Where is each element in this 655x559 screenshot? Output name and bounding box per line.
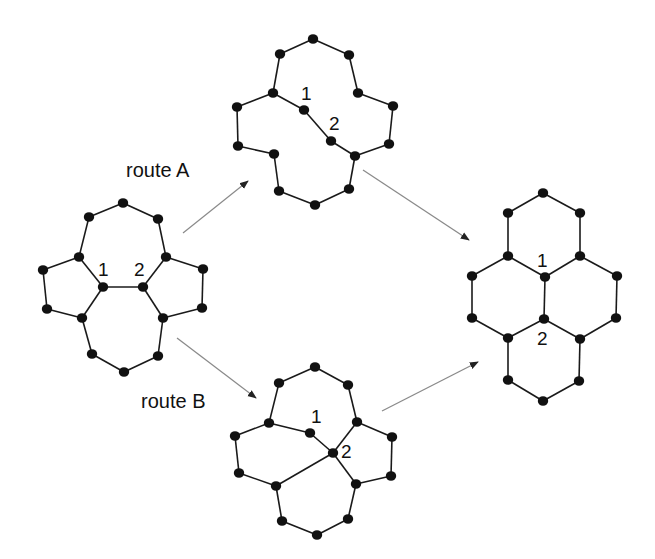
bond (237, 107, 238, 146)
bond (143, 257, 166, 287)
atom-node (343, 380, 353, 390)
atom-node (268, 88, 278, 98)
bond (356, 476, 391, 484)
arrow-routeA-to-product-arrow (363, 170, 469, 240)
atom-label-2: 2 (341, 441, 352, 462)
bond (315, 367, 348, 385)
atom-node (387, 432, 397, 442)
bond (158, 219, 166, 257)
atom-node (503, 251, 513, 261)
atom-node (312, 530, 322, 540)
bond (163, 308, 202, 318)
bond (269, 383, 279, 423)
product-molecule: 12 (467, 188, 622, 406)
atom-node (305, 428, 315, 438)
bond (238, 146, 274, 154)
bond (580, 318, 616, 339)
bond (508, 193, 543, 213)
bond (472, 318, 508, 338)
bond (89, 203, 123, 217)
bond (166, 257, 203, 269)
atom-node (161, 252, 171, 262)
route-a-label: route A (126, 159, 190, 181)
bond (47, 309, 82, 318)
atom-node (326, 136, 336, 146)
atom-node (118, 198, 128, 208)
reactant-molecule: 12 (38, 198, 208, 377)
reaction-diagram: 12121212 route A route B (0, 0, 655, 559)
atom-node (575, 208, 585, 218)
atom-label-1: 1 (301, 83, 312, 104)
atom-node (575, 251, 585, 261)
bond (276, 486, 282, 521)
atom-node (538, 396, 548, 406)
atom-node (352, 417, 362, 427)
atom-node (503, 333, 513, 343)
atom-node (197, 303, 207, 313)
route-labels: route A route B (126, 159, 205, 412)
atom-node (271, 481, 281, 491)
atom-node (42, 304, 52, 314)
atom-node (84, 212, 94, 222)
atom-node (274, 186, 284, 196)
atom-label-2: 2 (134, 259, 145, 280)
atom-label-2: 2 (329, 113, 340, 134)
atom-node (539, 314, 549, 324)
bond (357, 422, 392, 437)
bond (544, 319, 580, 339)
bond (92, 354, 124, 372)
atom-node (575, 334, 585, 344)
bond (355, 144, 389, 156)
atom-node (467, 313, 477, 323)
reaction-arrows (177, 170, 478, 411)
bond (202, 269, 203, 308)
atom-node (503, 208, 513, 218)
bond (349, 156, 355, 189)
atom-node (310, 362, 320, 372)
bond (508, 380, 543, 401)
atom-node (119, 367, 129, 377)
route-b-label: route B (141, 390, 205, 412)
route-a-intermediate: 12 (232, 34, 398, 210)
bond (158, 318, 163, 356)
bond (82, 287, 103, 318)
atom-node (350, 151, 360, 161)
bond (43, 270, 47, 309)
atom-node (344, 184, 354, 194)
atom-node (574, 376, 584, 386)
bond (545, 256, 580, 277)
bond (276, 453, 333, 486)
bond (124, 356, 158, 372)
bond (235, 423, 269, 436)
molecules: 12121212 (38, 34, 622, 540)
atom-node (275, 49, 285, 59)
arrow-routeB-to-product-arrow (382, 362, 478, 411)
bond (143, 287, 163, 318)
bond (543, 381, 579, 401)
bond (358, 93, 393, 106)
atom-node (98, 282, 108, 292)
bond (389, 106, 393, 144)
atom-node (230, 431, 240, 441)
atom-node (38, 265, 48, 275)
bond (348, 385, 357, 422)
bond (579, 339, 580, 381)
bond (82, 318, 92, 354)
bond (544, 277, 545, 319)
bond (273, 54, 280, 93)
bond (304, 110, 331, 141)
atom-label-1: 1 (537, 250, 548, 271)
atom-node (538, 188, 548, 198)
bond (274, 154, 279, 191)
atom-node (540, 272, 550, 282)
bond (79, 217, 89, 257)
bond (282, 521, 317, 535)
atom-node (503, 375, 513, 385)
atom-node (343, 514, 353, 524)
atom-node (612, 271, 622, 281)
bond (543, 193, 580, 213)
bond (580, 256, 617, 276)
atom-node (388, 101, 398, 111)
atom-node (77, 313, 87, 323)
atom-node (138, 282, 148, 292)
